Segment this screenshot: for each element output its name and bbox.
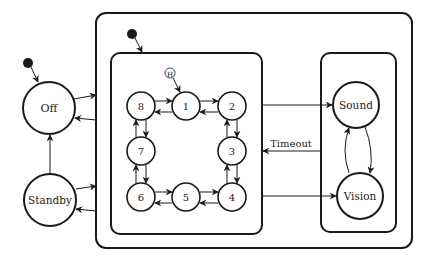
- transition-on-standby: [76, 209, 96, 211]
- state-off[interactable]: Off: [23, 82, 75, 134]
- transition-sound-vision: [365, 127, 371, 173]
- state-5[interactable]: 5: [172, 183, 200, 211]
- timeout-label: Timeout: [270, 138, 312, 149]
- state-7-label: 7: [138, 146, 144, 157]
- state-4-label: 4: [229, 192, 235, 203]
- history-marker: H: [165, 68, 175, 79]
- state-1-label: 1: [183, 101, 189, 112]
- transition-vision-sound: [345, 128, 349, 173]
- transition-on-off: [75, 118, 96, 120]
- state-sound-label: Sound: [339, 99, 373, 111]
- state-standby-label: Standby: [28, 194, 72, 206]
- transition-standby-on: [76, 186, 96, 189]
- history-marker-label: H: [167, 71, 173, 79]
- state-5-label: 5: [183, 192, 189, 203]
- initial-arrow-off: [31, 67, 38, 82]
- state-8[interactable]: 8: [127, 92, 155, 120]
- state-standby[interactable]: Standby: [24, 174, 76, 226]
- initial-state-dot-off: [23, 58, 33, 68]
- initial-state-dot-inner: [127, 29, 137, 39]
- transition-off-on: [74, 95, 96, 99]
- state-8-label: 8: [138, 101, 144, 112]
- initial-arrow-inner: [135, 38, 142, 52]
- state-3[interactable]: 3: [218, 137, 246, 165]
- state-2[interactable]: 2: [218, 92, 246, 120]
- state-1[interactable]: 1: [172, 92, 200, 120]
- history-arrow: [173, 78, 180, 92]
- state-off-label: Off: [41, 102, 59, 115]
- state-6-label: 6: [138, 192, 144, 203]
- state-sound[interactable]: Sound: [333, 82, 379, 128]
- state-diagram: Off Standby H 1 2 3 4 5 6: [0, 0, 432, 260]
- state-3-label: 3: [229, 146, 235, 157]
- state-vision[interactable]: Vision: [337, 173, 383, 219]
- state-2-label: 2: [229, 101, 235, 112]
- state-4[interactable]: 4: [218, 183, 246, 211]
- state-vision-label: Vision: [343, 190, 377, 202]
- state-7[interactable]: 7: [127, 137, 155, 165]
- state-6[interactable]: 6: [127, 183, 155, 211]
